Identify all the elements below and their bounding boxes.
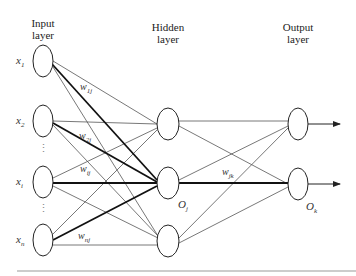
hidden-layer-title: Hidden layer bbox=[138, 21, 198, 45]
weight-label-wij: wij bbox=[80, 163, 91, 177]
nodes bbox=[33, 45, 308, 257]
output-label-ok: Ok bbox=[306, 200, 317, 215]
hidden-node-1 bbox=[157, 108, 179, 140]
hidden-node-3 bbox=[157, 225, 179, 257]
input-label-x1: x1 bbox=[16, 54, 24, 69]
ellipsis-1: ⋮ bbox=[38, 142, 49, 155]
ellipsis-2: ⋮ bbox=[38, 202, 49, 215]
weight-label-w2j: w2j bbox=[79, 130, 91, 144]
input-node-n bbox=[33, 224, 53, 256]
weight-label-wnj: wnj bbox=[78, 230, 90, 244]
output-layer-title: Output layer bbox=[268, 21, 328, 45]
input-label-xi: xi bbox=[16, 175, 23, 190]
output-node-1 bbox=[288, 108, 308, 140]
input-node-i bbox=[33, 166, 53, 198]
weight-label-w1j: w1j bbox=[80, 81, 92, 95]
input-label-xn: xn bbox=[16, 233, 24, 248]
input-node-1 bbox=[33, 45, 53, 77]
hidden-output-label-oj: Oj bbox=[178, 198, 188, 213]
output-node-k bbox=[288, 168, 308, 200]
output-arrows bbox=[308, 124, 340, 184]
input-node-2 bbox=[33, 105, 53, 137]
hidden-node-j bbox=[157, 167, 179, 199]
input-label-x2: x2 bbox=[16, 114, 24, 129]
weight-label-wjk: wjk bbox=[222, 166, 234, 180]
input-layer-title: Input layer bbox=[13, 17, 73, 41]
